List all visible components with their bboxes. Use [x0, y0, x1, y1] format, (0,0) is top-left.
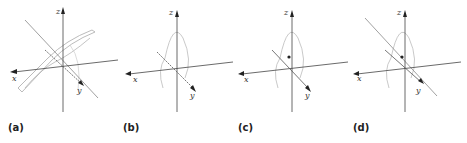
- panel-label-d: (d): [353, 122, 369, 133]
- panel-label-a: (a): [8, 122, 24, 133]
- x-axis-label: x: [12, 74, 17, 83]
- z-axis-label: z: [283, 8, 289, 17]
- axes-diagram-d: z x y: [345, 0, 467, 120]
- z-axis-label: z: [168, 8, 174, 17]
- y-axis-label: y: [189, 91, 195, 100]
- marked-point: [287, 55, 290, 58]
- z-axis-label: z: [55, 7, 61, 16]
- panel-b: z x y (b): [115, 0, 231, 143]
- z-axis-label: z: [396, 8, 402, 17]
- x-axis-label: x: [244, 75, 249, 84]
- marked-point: [400, 55, 403, 58]
- axes-diagram-c: z x y: [230, 0, 350, 120]
- y-axis-label: y: [76, 86, 82, 95]
- x-axis-label: x: [133, 75, 138, 84]
- panel-label-c: (c): [238, 122, 253, 133]
- panel-c: z x y (c): [230, 0, 346, 143]
- x-axis-label: x: [357, 74, 362, 83]
- panel-d: z x y (d): [345, 0, 461, 143]
- y-axis-label: y: [415, 86, 421, 95]
- axes-diagram-b: z x y: [115, 0, 235, 120]
- panel-a: z x y (a): [0, 0, 116, 143]
- y-axis-label: y: [304, 91, 310, 100]
- panel-label-b: (b): [123, 122, 139, 133]
- axes-diagram-a: z x y: [0, 0, 120, 120]
